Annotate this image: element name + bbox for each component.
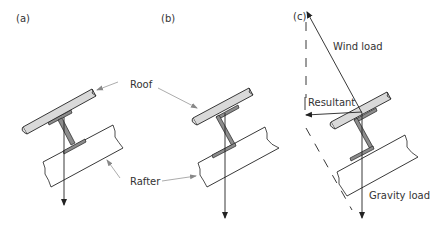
roof-leader-a xyxy=(97,82,118,90)
panel-b-label: (b) xyxy=(161,13,175,24)
panel-a-label: (a) xyxy=(16,13,30,24)
resultant-label: Resultant xyxy=(308,97,355,108)
roof-label: Roof xyxy=(130,79,153,90)
rafter-a xyxy=(43,125,123,187)
rafter-c xyxy=(337,135,418,196)
rafter-b xyxy=(198,127,279,187)
panel-c: Wind load Resultant Gravity load xyxy=(305,12,430,218)
wind-load-label: Wind load xyxy=(333,41,383,52)
purlin-diagram: (a) (b) (c) Roof Rafter xyxy=(0,0,443,226)
roof-b xyxy=(192,88,253,125)
rafter-leader-b xyxy=(162,176,196,181)
roof-a xyxy=(22,89,96,134)
dashed-diagonal xyxy=(306,128,352,210)
rafter-label: Rafter xyxy=(130,176,161,187)
rafter-leader-a xyxy=(107,160,120,178)
panel-c-label: (c) xyxy=(293,11,306,22)
panel-b xyxy=(192,88,279,218)
roof-leader-b xyxy=(158,88,197,108)
gravity-load-label: Gravity load xyxy=(369,190,430,201)
panel-a xyxy=(22,89,123,205)
